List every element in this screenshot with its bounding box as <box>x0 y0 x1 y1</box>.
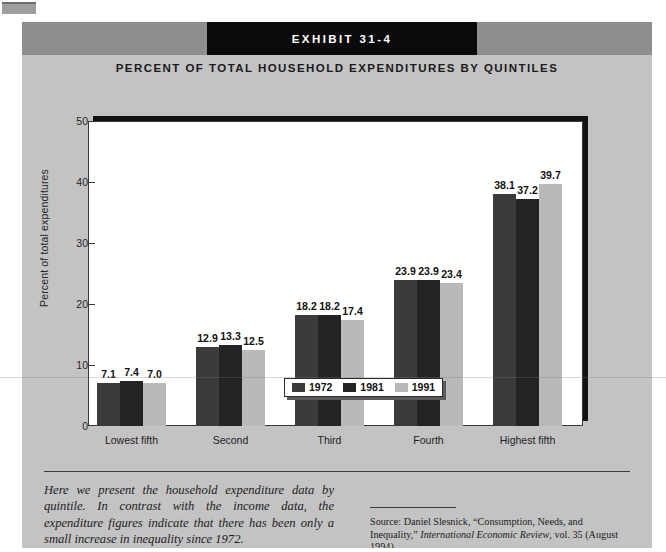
legend-label: 1981 <box>360 381 383 393</box>
y-tick-mark <box>88 182 95 183</box>
bar-1981-third <box>318 315 341 426</box>
y-tick-mark <box>88 365 95 366</box>
legend-label: 1972 <box>309 381 332 393</box>
bar-1991-second <box>242 350 265 426</box>
legend-item-1981: 1981 <box>343 381 383 393</box>
y-axis-title: Percent of total expenditures <box>38 153 50 323</box>
category-label: Lowest fifth <box>105 434 158 446</box>
legend-swatch-icon <box>343 383 356 392</box>
y-tick-label: 20 <box>62 298 88 310</box>
bar-1991-fourth <box>440 283 463 426</box>
y-tick-mark <box>88 304 95 305</box>
exhibit-caption: Here we present the household expenditur… <box>44 482 334 547</box>
bar-1972-third <box>295 315 318 426</box>
bar-value-label: 12.5 <box>243 335 263 347</box>
legend-item-1972: 1972 <box>292 381 332 393</box>
category-label: Third <box>318 434 342 446</box>
bar-1981-second <box>219 345 242 426</box>
bar-1991-lowest-fifth <box>143 383 166 426</box>
bar-1981-lowest-fifth <box>120 381 143 426</box>
bar-1981-highest-fifth <box>516 199 539 426</box>
exhibit-header-band: EXHIBIT 31-4 <box>22 22 652 55</box>
bar-1981-fourth <box>417 280 440 426</box>
source-block: Source: Daniel Slesnick, “Consumption, N… <box>370 507 632 548</box>
bar-value-label: 7.1 <box>101 368 116 380</box>
source-divider <box>370 507 456 508</box>
bar-value-label: 13.3 <box>220 330 240 342</box>
y-tick-label: 0 <box>62 420 88 432</box>
bar-value-label: 23.9 <box>395 265 415 277</box>
scan-corner-mark <box>2 2 36 14</box>
y-tick-label: 50 <box>62 115 88 127</box>
bar-1972-highest-fifth <box>493 194 516 426</box>
bar-value-label: 37.2 <box>517 184 537 196</box>
y-tick-label: 10 <box>62 359 88 371</box>
bar-1972-lowest-fifth <box>97 383 120 426</box>
bar-value-label: 38.1 <box>494 179 514 191</box>
footer-divider <box>44 471 630 472</box>
bar-value-label: 7.0 <box>147 368 162 380</box>
bar-value-label: 12.9 <box>197 332 217 344</box>
category-label: Second <box>213 434 249 446</box>
legend-swatch-icon <box>395 383 408 392</box>
y-axis-ticks: 01020304050 <box>52 121 88 426</box>
bar-1991-highest-fifth <box>539 184 562 426</box>
y-tick-label: 30 <box>62 237 88 249</box>
exhibit-number-badge: EXHIBIT 31-4 <box>207 22 477 55</box>
bar-1972-fourth <box>394 280 417 426</box>
bar-1991-third <box>341 320 364 426</box>
bar-value-label: 18.2 <box>319 300 339 312</box>
legend-item-1991: 1991 <box>395 381 435 393</box>
source-journal: International Economic Review <box>420 529 549 540</box>
bar-value-label: 23.9 <box>418 265 438 277</box>
legend-label: 1991 <box>412 381 435 393</box>
bar-value-label: 7.4 <box>124 366 139 378</box>
bar-value-label: 17.4 <box>342 305 362 317</box>
chart-legend: 197219811991 <box>284 378 443 397</box>
legend-swatch-icon <box>292 383 305 392</box>
bar-value-label: 39.7 <box>540 169 560 181</box>
bar-value-label: 18.2 <box>296 300 316 312</box>
chart-title: PERCENT OF TOTAL HOUSEHOLD EXPENDITURES … <box>22 62 652 74</box>
category-label: Fourth <box>413 434 443 446</box>
y-tick-mark <box>88 243 95 244</box>
exhibit-panel: EXHIBIT 31-4 PERCENT OF TOTAL HOUSEHOLD … <box>22 22 652 548</box>
category-label: Highest fifth <box>500 434 555 446</box>
source-text: Source: Daniel Slesnick, “Consumption, N… <box>370 516 632 548</box>
bar-1972-second <box>196 347 219 426</box>
y-tick-label: 40 <box>62 176 88 188</box>
bar-value-label: 23.4 <box>441 268 461 280</box>
